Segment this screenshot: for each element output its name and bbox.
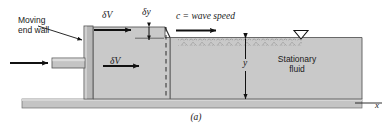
figure-caption: (a) [176, 112, 216, 123]
surge-fluid-body [93, 27, 170, 99]
surge-wave-diagram: Moving end wall δV δV δy c = wave speed … [0, 0, 391, 131]
channel-bed [22, 99, 362, 108]
free-surface-ripples [178, 39, 302, 46]
moving-end-wall-label: Moving end wall [18, 16, 49, 36]
wave-speed-label: c = wave speed [176, 11, 235, 22]
delta-v-inner-label: δV [110, 56, 120, 67]
x-axis-label: x [375, 100, 379, 110]
stationary-fluid-label: Stationary fluid [264, 55, 330, 75]
depth-label: y [243, 58, 247, 69]
delta-y-label: δy [142, 7, 151, 18]
delta-v-top-label: δV [102, 10, 112, 21]
piston-rod [52, 58, 85, 68]
